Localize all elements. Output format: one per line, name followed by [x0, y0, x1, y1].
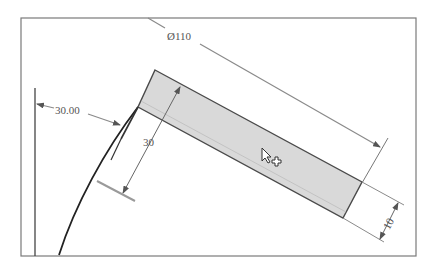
width-extension-line [97, 181, 135, 201]
width-dimension-label[interactable]: 30 [143, 136, 155, 148]
sketch-line-left[interactable] [121, 107, 138, 139]
thickness-dimension-label[interactable]: 10 [380, 215, 396, 231]
offset-dimension-line-left [37, 104, 54, 108]
thickness-extension-lower [343, 218, 384, 242]
offset-dimension-line-right [88, 114, 120, 125]
cad-sketch-viewport[interactable]: Ø110 30.00 30 10 [0, 0, 441, 269]
part-band[interactable] [138, 70, 362, 218]
diameter-dimension-line-a [148, 18, 165, 28]
diameter-dimension-label[interactable]: Ø110 [167, 30, 192, 42]
offset-dimension-label[interactable]: 30.00 [55, 104, 80, 116]
thickness-extension-upper [362, 182, 404, 205]
